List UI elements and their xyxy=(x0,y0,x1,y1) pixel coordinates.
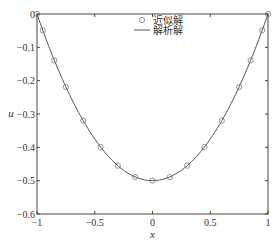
chart-canvas: −1−0.500.510−0.1−0.2−0.3−0.4−0.5−0.6xu近似… xyxy=(0,0,279,243)
legend-label-analytic: 解析解 xyxy=(153,24,183,36)
plot-area: −1−0.500.510−0.1−0.2−0.3−0.4−0.5−0.6xu近似… xyxy=(8,9,270,241)
y-tick-label: −0.2 xyxy=(17,75,35,86)
y-tick-label: −0.6 xyxy=(17,209,35,220)
x-tick-label: 0.5 xyxy=(204,217,217,228)
y-axis-label: u xyxy=(8,107,14,119)
y-tick-label: −0.1 xyxy=(17,42,35,53)
y-tick-label: −0.5 xyxy=(17,175,35,186)
axes-frame xyxy=(37,14,268,214)
analytic-solution-line xyxy=(37,14,268,181)
y-tick-label: −0.4 xyxy=(17,142,35,153)
x-axis-label: x xyxy=(149,228,155,240)
legend-marker-circle-icon xyxy=(139,17,144,22)
y-tick-label: −0.3 xyxy=(17,109,35,120)
x-tick-label: 0 xyxy=(150,217,155,228)
x-tick-label: 1 xyxy=(266,217,271,228)
x-tick-label: −0.5 xyxy=(86,217,104,228)
